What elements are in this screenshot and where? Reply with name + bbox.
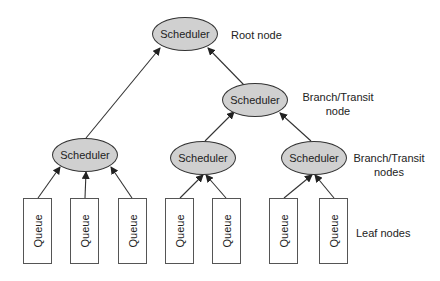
right-scheduler-node: Scheduler [281,141,347,175]
edge-branch-to-root [208,48,244,85]
middle-scheduler-label: Scheduler [178,152,228,164]
queue-box-7: Queue [319,198,348,264]
queue-label: Queue [328,214,340,247]
edge-q5-to-middle [206,175,226,198]
queue-label: Queue [221,214,233,247]
queue-label: Queue [174,214,186,247]
edge-q1-to-left [38,167,60,198]
queue-label: Queue [278,214,290,247]
queue-label: Queue [79,214,91,247]
branch-annotation-line1: Branch/Transit [300,90,376,104]
queue-box-1: Queue [23,198,52,264]
edge-q7-to-right [315,175,334,198]
middle-scheduler-node: Scheduler [170,141,236,175]
left-scheduler-label: Scheduler [60,149,110,161]
queue-box-2: Queue [70,198,99,264]
left-scheduler-node: Scheduler [52,138,118,172]
root-scheduler-node: Scheduler [152,17,218,51]
branch-nodes-annotation: Branch/Transit nodes [351,151,427,179]
queue-box-6: Queue [269,198,298,264]
edge-q4-to-middle [180,175,203,198]
root-scheduler-label: Scheduler [160,28,210,40]
root-node-annotation: Root node [231,28,282,42]
branch-scheduler-label: Scheduler [230,94,280,106]
branch-annotation-line2: node [300,104,376,118]
leaf-nodes-annotation: Leaf nodes [356,226,410,240]
queue-box-3: Queue [118,198,147,264]
edge-middle-to-branch [205,112,234,141]
queue-box-5: Queue [212,198,241,264]
edge-left-to-root [86,48,160,138]
edge-q2-to-left [85,172,86,198]
branches-annotation-line2: nodes [351,165,427,179]
edge-q3-to-left [111,167,132,198]
queue-box-4: Queue [165,198,194,264]
branch-node-annotation: Branch/Transit node [300,90,376,118]
branch-scheduler-node: Scheduler [222,83,288,117]
right-scheduler-label: Scheduler [289,152,339,164]
queue-label: Queue [32,214,44,247]
branches-annotation-line1: Branch/Transit [351,151,427,165]
edge-q6-to-right [284,175,312,198]
queue-label: Queue [127,214,139,247]
